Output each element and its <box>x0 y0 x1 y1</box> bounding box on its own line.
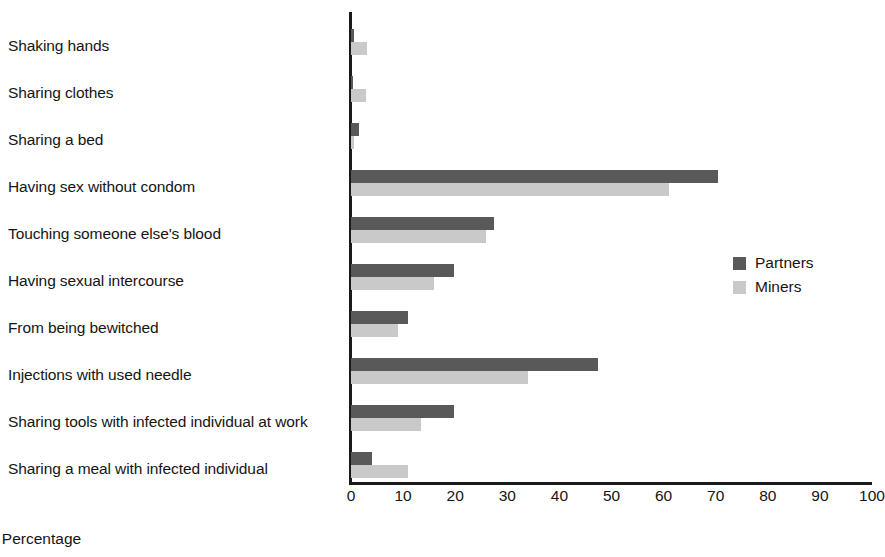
legend-item-miners: Miners <box>733 277 814 297</box>
bar-fill <box>351 230 486 243</box>
bar-fill <box>351 183 669 196</box>
bar-fill <box>351 136 354 149</box>
legend-label: Miners <box>755 279 802 295</box>
category-axis-labels: Shaking handsSharing clothesSharing a be… <box>0 0 340 482</box>
bar-miners <box>351 89 366 102</box>
bar-fill <box>351 277 434 290</box>
x-tick-label: 60 <box>655 487 672 505</box>
bar-partners <box>351 311 408 324</box>
bar-fill <box>351 123 359 136</box>
x-tick-label: 80 <box>759 487 776 505</box>
x-tick-label: 40 <box>551 487 568 505</box>
legend-swatch-icon <box>733 281 746 294</box>
bar-fill <box>351 452 372 465</box>
x-tick-label: 70 <box>707 487 724 505</box>
bar-fill <box>351 405 454 418</box>
bar-fill <box>351 418 421 431</box>
category-label: Touching someone else's blood <box>8 226 221 242</box>
x-axis-tick-labels: 0102030405060708090100 <box>0 487 883 511</box>
bar-fill <box>351 465 408 478</box>
chart-legend: PartnersMiners <box>733 253 814 301</box>
bar-partners <box>351 217 494 230</box>
x-axis-line <box>349 482 872 485</box>
bar-partners <box>351 29 354 42</box>
bar-fill <box>351 29 354 42</box>
bar-fill <box>351 217 494 230</box>
x-tick-label: 10 <box>394 487 411 505</box>
bar-fill <box>351 311 408 324</box>
legend-swatch-icon <box>733 257 746 270</box>
bar-fill <box>351 371 528 384</box>
bar-partners <box>351 123 359 136</box>
bar-partners <box>351 76 353 89</box>
bar-partners <box>351 452 372 465</box>
category-label: Injections with used needle <box>8 367 191 383</box>
bar-miners <box>351 371 528 384</box>
category-label: Shaking hands <box>8 38 109 54</box>
bar-partners <box>351 358 598 371</box>
category-label: Sharing a bed <box>8 132 103 148</box>
bar-miners <box>351 230 486 243</box>
bar-miners <box>351 324 398 337</box>
category-label: Having sexual intercourse <box>8 273 184 289</box>
category-label: From being bewitched <box>8 320 159 336</box>
bar-miners <box>351 136 354 149</box>
x-axis-title-text: Percentage <box>2 530 81 547</box>
x-tick-label: 30 <box>499 487 516 505</box>
x-tick-label: 90 <box>811 487 828 505</box>
bar-miners <box>351 42 367 55</box>
legend-item-partners: Partners <box>733 253 814 273</box>
bar-fill <box>351 324 398 337</box>
bar-partners <box>351 405 454 418</box>
bar-miners <box>351 465 408 478</box>
legend-label: Partners <box>755 255 814 271</box>
bar-fill <box>351 358 598 371</box>
x-axis-title: Percentage <box>0 530 883 548</box>
bar-partners <box>351 264 454 277</box>
category-label: Sharing clothes <box>8 85 113 101</box>
x-tick-label: 100 <box>859 487 885 505</box>
x-tick-label: 0 <box>347 487 356 505</box>
bar-miners <box>351 183 669 196</box>
category-label: Sharing a meal with infected individual <box>8 461 268 477</box>
bar-miners <box>351 418 421 431</box>
bar-miners <box>351 277 434 290</box>
bar-partners <box>351 170 718 183</box>
x-tick-label: 50 <box>603 487 620 505</box>
bar-fill <box>351 170 718 183</box>
bar-fill <box>351 42 367 55</box>
x-tick-label: 20 <box>447 487 464 505</box>
category-label: Having sex without condom <box>8 179 195 195</box>
bar-fill <box>351 264 454 277</box>
bar-fill <box>351 89 366 102</box>
category-label: Sharing tools with infected individual a… <box>8 414 308 430</box>
bar-fill <box>351 76 353 89</box>
plot-area <box>351 12 872 482</box>
